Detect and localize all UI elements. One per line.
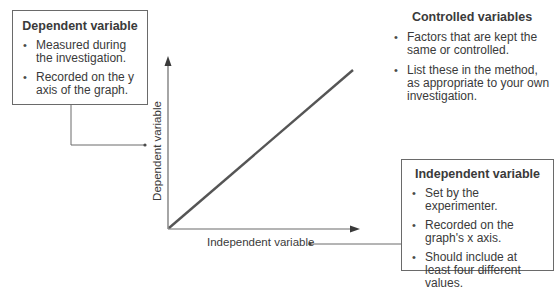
controlled-variables-list: Factors that are kept the same or contro… xyxy=(392,31,552,103)
controlled-variables-block: Controlled variables Factors that are ke… xyxy=(392,10,552,103)
controlled-bullet: List these in the method, as appropriate… xyxy=(392,64,552,103)
controlled-bullet: Factors that are kept the same or contro… xyxy=(392,31,552,57)
x-axis-label: Independent variable xyxy=(207,236,314,248)
dependent-variable-box: Dependent variable Measured during the i… xyxy=(12,10,148,105)
independent-variable-list: Set by the experimenter. Recorded on the… xyxy=(410,187,545,290)
controlled-variables-title: Controlled variables xyxy=(392,10,552,24)
independent-bullet: Should include at least four different v… xyxy=(410,251,545,290)
dependent-connector-dot xyxy=(143,143,146,146)
data-line xyxy=(169,70,353,228)
x-axis-arrow-icon xyxy=(350,226,360,233)
dependent-variable-title: Dependent variable xyxy=(21,19,139,33)
y-axis-label: Dependent variable xyxy=(151,101,163,201)
independent-variable-title: Independent variable xyxy=(410,167,545,181)
dependent-bullet: Recorded on the y axis of the graph. xyxy=(21,71,139,97)
independent-variable-box: Independent variable Set by the experime… xyxy=(401,159,554,271)
dependent-connector xyxy=(71,105,144,145)
y-axis-arrow-icon xyxy=(165,56,172,66)
independent-bullet: Recorded on the graph's x axis. xyxy=(410,219,545,245)
dependent-bullet: Measured during the investigation. xyxy=(21,39,139,65)
independent-bullet: Set by the experimenter. xyxy=(410,187,545,213)
dependent-variable-list: Measured during the investigation. Recor… xyxy=(21,39,139,97)
